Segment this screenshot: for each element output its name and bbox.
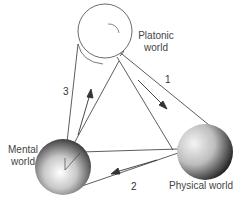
edge-3-number: 3 [63, 86, 69, 97]
edge-2-number: 2 [131, 181, 137, 192]
platonic-world-label: Platonic world [135, 30, 177, 54]
physical-label-line1: Physical world [165, 180, 237, 192]
mental-label-line2: world [5, 156, 41, 168]
platonic-world-sphere [78, 4, 132, 64]
physical-world-sphere [177, 124, 233, 180]
arrow-2-icon [111, 160, 157, 174]
mental-world-label: Mental world [5, 144, 41, 168]
mental-world-sphere [35, 139, 91, 195]
arrow-1-icon [138, 80, 167, 109]
physical-world-label: Physical world [165, 180, 237, 192]
mental-label-line1: Mental [5, 144, 41, 156]
edge-1-number: 1 [165, 74, 171, 85]
platonic-label-line2: world [135, 42, 177, 54]
platonic-label-line1: Platonic [135, 30, 177, 42]
